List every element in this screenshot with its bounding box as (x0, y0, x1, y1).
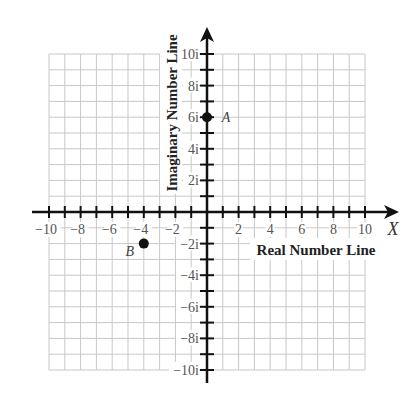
x-tick-label: −6 (102, 222, 117, 237)
x-tick-label: −2 (165, 222, 180, 237)
complex-plane-diagram: −10−8−6−4−224681010i8i6i4i2i−2i−4i−6i−8i… (0, 0, 418, 409)
point-a (202, 112, 212, 122)
x-tick-label: −4 (133, 222, 148, 237)
point-label-b: B (126, 244, 135, 259)
y-tick-label: −2i (180, 237, 199, 252)
y-tick-label: −6i (180, 300, 199, 315)
x-tick-label: 6 (298, 222, 305, 237)
complex-plane-svg: −10−8−6−4−224681010i8i6i4i2i−2i−4i−6i−8i… (0, 0, 418, 409)
y-tick-label: 8i (188, 79, 199, 94)
x-tick-label: 4 (267, 222, 274, 237)
axes (32, 27, 399, 383)
y-tick-label: 6i (188, 110, 199, 125)
y-tick-label: −4i (180, 268, 199, 283)
y-tick-label: −8i (180, 331, 199, 346)
y-tick-label: 2i (188, 173, 199, 188)
x-tick-label: −8 (70, 222, 85, 237)
real-axis-title: Real Number Line (257, 242, 376, 258)
x-tick-label: −10 (35, 222, 57, 237)
x-tick-label: 10 (358, 222, 372, 237)
imag-axis-title: Imaginary Number Line (164, 34, 180, 192)
x-tick-label: 8 (330, 222, 337, 237)
point-label-a: A (221, 110, 231, 125)
y-tick-label: 4i (188, 142, 199, 157)
y-tick-label: 10i (181, 47, 199, 62)
point-b (139, 239, 149, 249)
x-variable-label: X (387, 219, 400, 239)
x-tick-label: 2 (235, 222, 242, 237)
y-tick-label: −10i (173, 363, 199, 378)
